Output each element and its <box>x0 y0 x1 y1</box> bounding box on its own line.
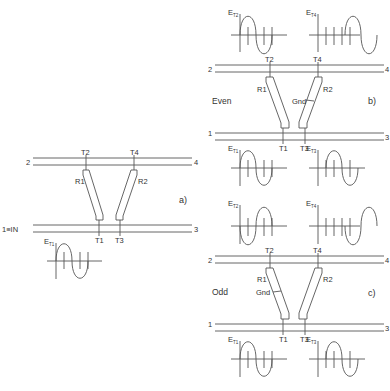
resistor-r2-label: R2 <box>138 177 148 186</box>
port-1-label: 1 <box>208 320 212 329</box>
waveform-et3: E T3 <box>306 144 365 186</box>
strip-r1 <box>266 77 289 128</box>
tap-t1-label: T1 <box>279 335 288 344</box>
panel-caption-a: a) <box>179 195 187 205</box>
port-4-label: 4 <box>385 65 389 74</box>
tap-t4-label: T4 <box>130 148 139 157</box>
resistor-r1-label: R1 <box>75 177 85 186</box>
svg-text:T1: T1 <box>233 149 239 154</box>
waveform-et4: E T4 <box>306 199 377 245</box>
port-4-label: 4 <box>194 158 198 167</box>
svg-text:T2: T2 <box>233 204 239 209</box>
panel-b: E T2 E T4 2 4 1 3 <box>208 8 389 186</box>
port-2-label: 2 <box>208 256 212 265</box>
resistor-r2-label: R2 <box>323 85 333 94</box>
tap-t2-label: T2 <box>265 55 274 64</box>
gnd-label: Gnd <box>292 97 306 106</box>
mode-label-odd: Odd <box>212 287 228 297</box>
panel-caption-b: b) <box>368 96 376 106</box>
tap-t1-label: T1 <box>279 144 288 153</box>
panel-a: 2 4 1≡IN 3 T2 T4 T1 T3 R1 R2 a) E T1 <box>2 148 198 279</box>
port-3-label: 3 <box>385 324 389 333</box>
port-2-label: 2 <box>26 158 30 167</box>
port-3-label: 3 <box>385 133 389 142</box>
strip-r1 <box>83 170 103 220</box>
svg-text:T2: T2 <box>233 13 239 18</box>
port-3-label: 3 <box>194 225 198 234</box>
strip-r2 <box>299 268 322 319</box>
coupled-line-diagram: 2 4 1≡IN 3 T2 T4 T1 T3 R1 R2 a) E T1 <box>0 0 390 391</box>
svg-text:T4: T4 <box>311 13 317 18</box>
svg-text:T3: T3 <box>311 340 317 345</box>
mode-label-even: Even <box>212 96 232 106</box>
port-2-label: 2 <box>208 65 212 74</box>
waveform-et1: E T1 <box>44 237 102 279</box>
tap-t2-label: T2 <box>81 148 90 157</box>
gnd-label: Gnd <box>256 288 270 297</box>
waveform-et3: E T3 <box>306 335 365 377</box>
waveform-et2: E T2 <box>228 199 287 245</box>
svg-text:T3: T3 <box>311 149 317 154</box>
tap-t4-label: T4 <box>313 55 322 64</box>
tap-t2-label: T2 <box>265 246 274 255</box>
waveform-et2: E T2 <box>228 8 287 54</box>
svg-text:T1: T1 <box>233 340 239 345</box>
port-4-label: 4 <box>385 256 389 265</box>
panel-c: E T2 E T4 2 4 1 3 <box>208 199 389 377</box>
tap-t4-label: T4 <box>313 246 322 255</box>
tap-t1-label: T1 <box>95 236 104 245</box>
resistor-r2-label: R2 <box>323 275 333 284</box>
waveform-et4: E T4 <box>306 8 377 54</box>
port-1-label: 1≡IN <box>2 225 18 234</box>
port-1-label: 1 <box>208 129 212 138</box>
svg-text:T4: T4 <box>311 204 317 209</box>
resistor-r1-label: R1 <box>257 85 267 94</box>
panel-caption-c: c) <box>368 288 376 298</box>
tap-t3-label: T3 <box>115 236 124 245</box>
svg-text:T1: T1 <box>49 242 55 247</box>
resistor-r1-label: R1 <box>257 275 267 284</box>
strip-r2 <box>116 170 137 220</box>
